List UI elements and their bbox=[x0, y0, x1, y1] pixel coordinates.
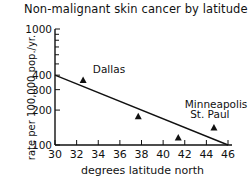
x-tick-label: 32 bbox=[70, 148, 84, 161]
x-tick-label: 42 bbox=[178, 148, 192, 161]
x-tick-label: 44 bbox=[199, 148, 213, 161]
plot-area: 1002003004001000303234363840424446Dallas… bbox=[0, 0, 252, 186]
x-tick-label: 36 bbox=[113, 148, 127, 161]
x-tick-label: 46 bbox=[221, 148, 235, 161]
point-annotation: Dallas bbox=[93, 63, 125, 75]
data-point-triangle bbox=[80, 76, 87, 83]
y-tick-label: 1000 bbox=[25, 23, 52, 35]
point-annotation: St. Paul bbox=[190, 108, 229, 120]
data-point-triangle bbox=[175, 134, 182, 141]
x-tick-label: 38 bbox=[135, 148, 149, 161]
x-tick-label: 40 bbox=[156, 148, 170, 161]
data-point-triangle bbox=[135, 113, 142, 120]
y-tick-label: 200 bbox=[32, 104, 52, 116]
x-tick-label: 34 bbox=[91, 148, 105, 161]
x-tick-label: 30 bbox=[48, 148, 62, 161]
y-tick-label: 300 bbox=[32, 84, 52, 96]
y-tick-label: 400 bbox=[32, 69, 52, 81]
data-point-triangle bbox=[210, 124, 217, 131]
